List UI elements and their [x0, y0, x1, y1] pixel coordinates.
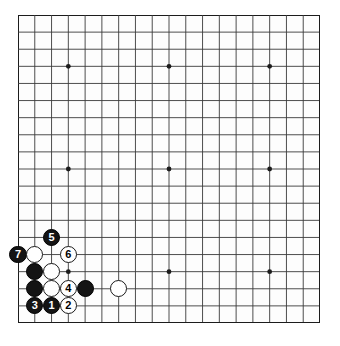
- board-surface: 1234567: [18, 15, 320, 323]
- stone-black-c5-r16: [77, 280, 94, 297]
- stone-move-number: 6: [65, 249, 71, 260]
- stone-6-white: 6: [60, 246, 77, 263]
- stone-move-number: 2: [65, 300, 71, 311]
- stone-7-black: 7: [9, 246, 26, 263]
- stone-move-number: 5: [48, 232, 54, 243]
- stone-5-black: 5: [43, 229, 60, 246]
- stone-move-number: 3: [32, 300, 38, 311]
- go-board-diagram: 1234567: [0, 0, 340, 346]
- stone-move-number: 7: [15, 249, 21, 260]
- stone-move-number: 1: [48, 300, 54, 311]
- board-grid: [18, 15, 320, 323]
- stone-move-number: 4: [65, 283, 71, 294]
